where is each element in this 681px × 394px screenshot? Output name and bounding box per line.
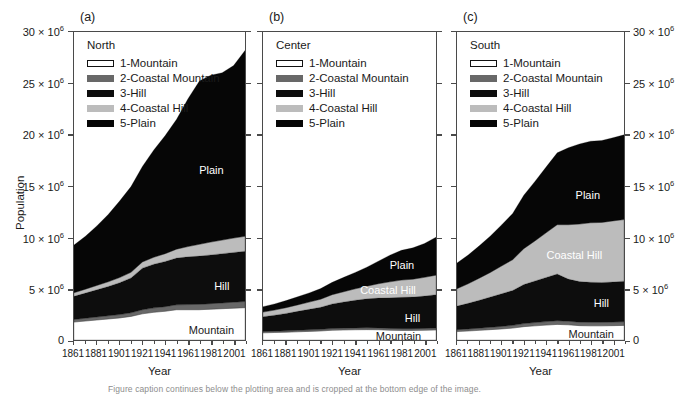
y-tick-mark-inner-2-6 bbox=[246, 31, 251, 32]
x-tick-minor-north-1911 bbox=[131, 341, 132, 344]
x-axis-title-north: Year bbox=[73, 365, 246, 377]
legend-swatch-cmountain-icon bbox=[470, 75, 497, 82]
y-tick-label-left-5: 25 × 106 bbox=[0, 76, 64, 90]
y-tick-mark-inner-0-4 bbox=[257, 134, 262, 135]
y-tick-mark-right-3 bbox=[625, 186, 630, 187]
x-tick-minor-south-1991 bbox=[602, 341, 603, 344]
y-tick-mark-inner-1-3 bbox=[437, 186, 442, 187]
legend-item-mountain[interactable]: 1-Mountain bbox=[470, 57, 603, 71]
legend-item-hill[interactable]: 3-Hill bbox=[276, 87, 409, 101]
y-tick-mark-inner-1-4 bbox=[437, 134, 442, 135]
legend-item-mountain[interactable]: 1-Mountain bbox=[276, 57, 409, 71]
y-tick-label-right-1: 5 × 106 bbox=[633, 282, 681, 296]
area-label-plain-north: Plain bbox=[199, 164, 223, 176]
legend-south: 1-Mountain2-Coastal Mountain3-Hill4-Coas… bbox=[470, 57, 603, 132]
legend-label-cmountain: 2-Coastal Mountain bbox=[503, 73, 603, 85]
legend-item-hill[interactable]: 3-Hill bbox=[87, 87, 220, 101]
y-tick-mark-inner-3-4 bbox=[451, 134, 456, 135]
y-tick-mark-inner-1-2 bbox=[437, 238, 442, 239]
x-tick-minor-center-1951 bbox=[367, 341, 368, 344]
x-tick-minor-south-1931 bbox=[535, 341, 536, 344]
legend-item-cmountain[interactable]: 2-Coastal Mountain bbox=[276, 72, 409, 86]
legend-item-chill[interactable]: 4-Coastal Hill bbox=[87, 102, 220, 116]
y-tick-mark-inner-2-4 bbox=[246, 134, 251, 135]
legend-item-chill[interactable]: 4-Coastal Hill bbox=[276, 102, 409, 116]
y-tick-label-left-3: 15 × 106 bbox=[0, 179, 64, 193]
y-tick-mark-right-4 bbox=[625, 134, 630, 135]
x-tick-minor-south-1891 bbox=[490, 341, 491, 344]
x-tick-mark-north-2 bbox=[119, 341, 120, 345]
legend-item-plain[interactable]: 5-Plain bbox=[87, 117, 220, 131]
legend-label-plain: 5-Plain bbox=[120, 118, 156, 130]
area-label-hill-north: Hill bbox=[214, 280, 229, 292]
x-tick-mark-north-6 bbox=[211, 341, 212, 345]
legend-item-cmountain[interactable]: 2-Coastal Mountain bbox=[87, 72, 220, 86]
legend-label-cmountain: 2-Coastal Mountain bbox=[309, 73, 409, 85]
x-tick-mark-north-0 bbox=[73, 341, 74, 345]
y-tick-mark-right-1 bbox=[625, 289, 630, 290]
x-tick-minor-north-1891 bbox=[108, 341, 109, 344]
y-tick-mark-inner-3-5 bbox=[451, 83, 456, 84]
legend-swatch-cmountain-icon bbox=[276, 75, 303, 82]
legend-label-chill: 4-Coastal Hill bbox=[120, 103, 188, 115]
x-tick-minor-north-1871 bbox=[85, 341, 86, 344]
region-title-south: South bbox=[470, 39, 500, 51]
y-tick-label-right-4: 20 × 106 bbox=[633, 127, 681, 141]
x-tick-mark-center-5 bbox=[379, 341, 380, 345]
panel-tag-south: (c) bbox=[463, 10, 478, 24]
legend-swatch-hill-icon bbox=[87, 90, 114, 97]
legend-label-chill: 4-Coastal Hill bbox=[309, 103, 377, 115]
y-tick-mark-inner-2-2 bbox=[246, 238, 251, 239]
x-tick-minor-south-1871 bbox=[467, 341, 468, 344]
y-tick-label-right-3: 15 × 106 bbox=[633, 179, 681, 193]
legend-swatch-plain-icon bbox=[470, 120, 497, 127]
legend-item-cmountain[interactable]: 2-Coastal Mountain bbox=[470, 72, 603, 86]
legend-label-hill: 3-Hill bbox=[503, 88, 529, 100]
x-tick-minor-south-1911 bbox=[512, 341, 513, 344]
x-tick-minor-north-1971 bbox=[200, 341, 201, 344]
area-label-plain-south: Plain bbox=[576, 189, 600, 201]
x-axis-title-south: Year bbox=[456, 365, 625, 377]
figure-caption: Figure caption continues below the plott… bbox=[0, 384, 681, 394]
x-tick-mark-south-0 bbox=[456, 341, 457, 345]
x-tick-minor-center-1891 bbox=[297, 341, 298, 344]
legend-swatch-plain-icon bbox=[276, 120, 303, 127]
legend-item-chill[interactable]: 4-Coastal Hill bbox=[470, 102, 603, 116]
legend-item-plain[interactable]: 5-Plain bbox=[470, 117, 603, 131]
y-tick-label-left-6: 30 × 106 bbox=[0, 24, 64, 38]
area-label-mountain-south: Mountain bbox=[569, 328, 614, 340]
x-tick-minor-south-1971 bbox=[580, 341, 581, 344]
x-tick-mark-center-7 bbox=[425, 341, 426, 345]
y-tick-mark-inner-0-3 bbox=[257, 186, 262, 187]
legend-item-hill[interactable]: 3-Hill bbox=[470, 87, 603, 101]
x-tick-minor-center-1931 bbox=[344, 341, 345, 344]
legend-north: 1-Mountain2-Coastal Mountain3-Hill4-Coas… bbox=[87, 57, 220, 132]
x-tick-mark-center-2 bbox=[309, 341, 310, 345]
x-tick-mark-south-6 bbox=[591, 341, 592, 345]
x-tick-minor-north-1991 bbox=[223, 341, 224, 344]
x-tick-minor-south-1951 bbox=[557, 341, 558, 344]
y-tick-mark-inner-0-2 bbox=[257, 238, 262, 239]
legend-swatch-mountain-icon bbox=[470, 60, 497, 67]
x-tick-mark-south-2 bbox=[501, 341, 502, 345]
x-tick-mark-north-5 bbox=[188, 341, 189, 345]
y-tick-label-left-0: 0 bbox=[0, 334, 64, 346]
x-tick-mark-north-1 bbox=[96, 341, 97, 345]
x-tick-mark-center-6 bbox=[402, 341, 403, 345]
panel-tag-center: (b) bbox=[269, 10, 284, 24]
legend-item-plain[interactable]: 5-Plain bbox=[276, 117, 409, 131]
legend-label-chill: 4-Coastal Hill bbox=[503, 103, 571, 115]
y-tick-mark-inner-3-6 bbox=[451, 31, 456, 32]
legend-label-plain: 5-Plain bbox=[503, 118, 539, 130]
y-tick-mark-inner-1-6 bbox=[437, 31, 442, 32]
x-tick-mark-north-3 bbox=[142, 341, 143, 345]
y-tick-mark-inner-1-5 bbox=[437, 83, 442, 84]
area-label-hill-center: Hill bbox=[405, 312, 420, 324]
x-tick-label-south-7: 2001 bbox=[594, 348, 634, 359]
legend-item-mountain[interactable]: 1-Mountain bbox=[87, 57, 220, 71]
y-tick-mark-inner-3-2 bbox=[451, 238, 456, 239]
y-tick-mark-inner-2-3 bbox=[246, 186, 251, 187]
legend-label-hill: 3-Hill bbox=[120, 88, 146, 100]
x-tick-mark-center-0 bbox=[262, 341, 263, 345]
x-tick-mark-north-4 bbox=[165, 341, 166, 345]
